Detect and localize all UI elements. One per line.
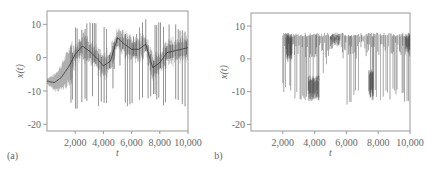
y-tick-label: -20	[28, 119, 41, 130]
y-tick-label: 10	[235, 21, 245, 32]
panel-label: (b)	[214, 150, 223, 162]
x-tick-label: 2,000	[272, 137, 295, 148]
y-tick-label: -10	[232, 86, 245, 97]
x-tick-label: 8,000	[149, 137, 172, 148]
panel-label: (a)	[7, 150, 18, 162]
x-tick-label: 8,000	[367, 137, 390, 148]
x-tick-label: 10,000	[174, 137, 202, 148]
y-tick-label: -10	[28, 86, 41, 97]
x-tick-label: 6,000	[335, 137, 358, 148]
panel-a: 100-10-202,0004,0006,0008,00010,000x(t)t…	[0, 0, 214, 171]
x-tick-label: 4,000	[92, 137, 115, 148]
x-tick-label: 4,000	[303, 137, 326, 148]
x-tick-label: 6,000	[120, 137, 143, 148]
data-series	[283, 33, 410, 105]
x-axis-label: t	[329, 147, 332, 158]
x-axis-label: t	[116, 147, 119, 158]
data-series	[47, 19, 188, 108]
y-axis-label: x(t)	[218, 64, 230, 80]
chart-b: 100-10-202,0004,0006,0008,00010,000x(t)t…	[214, 0, 427, 171]
y-tick-label: 0	[240, 53, 245, 64]
y-axis-label: x(t)	[14, 63, 26, 79]
y-tick-label: 10	[31, 19, 41, 30]
x-tick-label: 2,000	[64, 137, 87, 148]
panel-b: 100-10-202,0004,0006,0008,00010,000x(t)t…	[214, 0, 427, 171]
y-tick-label: -20	[232, 119, 245, 130]
chart-a: 100-10-202,0004,0006,0008,00010,000x(t)t…	[0, 0, 214, 171]
y-tick-label: 0	[36, 52, 41, 63]
x-tick-label: 10,000	[396, 137, 424, 148]
